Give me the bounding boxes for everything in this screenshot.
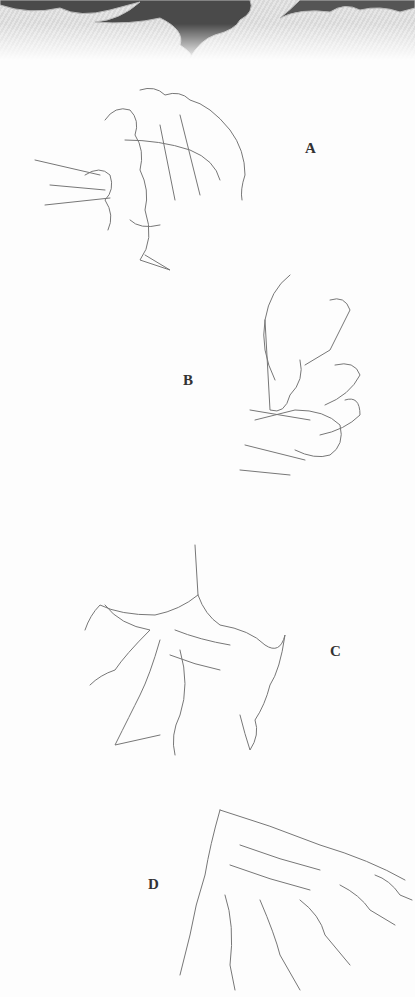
figure-label-c: C [330, 643, 341, 660]
figure-label-b: B [183, 372, 193, 389]
flame-icon [0, 0, 415, 60]
claw-sketch-a [30, 80, 280, 280]
claw-sketch-d [150, 805, 415, 995]
claw-sketch-c [80, 545, 320, 760]
flame-banner [0, 0, 415, 60]
figure-label-a: A [305, 140, 316, 157]
figure-label-d: D [148, 876, 159, 893]
claw-sketch-b [235, 270, 415, 510]
